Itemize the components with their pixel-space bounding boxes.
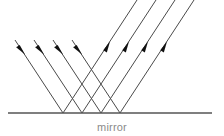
reflected-ray-1	[63, 0, 137, 113]
incident-arrow-3-icon	[54, 45, 63, 55]
incident-arrowheads-group	[16, 45, 82, 55]
incident-arrow-4-icon	[73, 45, 82, 55]
reflected-ray-4	[120, 0, 194, 113]
incident-arrow-1-icon	[16, 45, 25, 55]
reflection-diagram-canvas: mirror	[0, 0, 224, 136]
reflected-ray-3	[101, 0, 175, 113]
mirror-label: mirror	[97, 121, 127, 133]
reflected-arrowheads-group	[103, 41, 167, 52]
reflected-ray-2	[82, 0, 156, 113]
mirror-reflection-diagram: mirror	[0, 0, 224, 136]
incident-rays-group	[15, 40, 120, 113]
incident-arrow-2-icon	[35, 45, 44, 55]
